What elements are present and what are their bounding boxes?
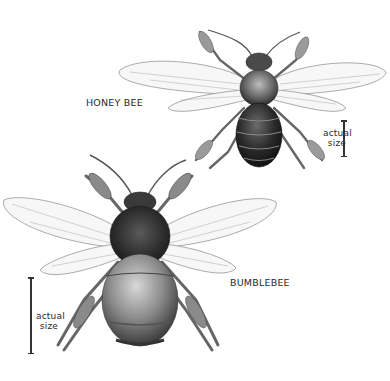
bumblebee-label: BUMBLEBEE (230, 277, 290, 288)
honey-bee-label: HONEY BEE (86, 97, 143, 108)
honey-bee-scale-line2: size (323, 138, 351, 148)
bumblebee-scale-text: actual size (36, 311, 62, 331)
bumblebee-scale-line2: size (36, 321, 62, 331)
bumblebee-scale-bar (30, 277, 32, 354)
honey-bee-thorax (240, 70, 278, 106)
honey-bee-scale-bar (343, 120, 345, 157)
honey-bee-scale-text: actual size (323, 128, 351, 148)
honey-bee-head (246, 53, 272, 71)
bumblebee-scale-line1: actual (36, 311, 62, 321)
honey-bee-scale-line1: actual (323, 128, 351, 138)
bumblebee-abdomen (102, 254, 178, 346)
